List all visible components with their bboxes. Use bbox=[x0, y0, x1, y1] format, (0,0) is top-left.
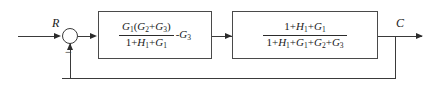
interstage-arrow-icon bbox=[225, 33, 232, 39]
output-signal-label-C: C bbox=[396, 17, 404, 29]
block-1-trailing-term: -G3 bbox=[176, 29, 191, 41]
input-signal-line bbox=[18, 36, 55, 37]
block-2-numerator: 1+H1+G1 bbox=[281, 21, 328, 33]
feedback-arrow-icon bbox=[67, 43, 73, 50]
block-1-expression: G1(G2+G3) 1+H1+G1 -G3 bbox=[119, 21, 191, 48]
error-signal-arrow-icon bbox=[90, 33, 97, 39]
summing-junction bbox=[62, 28, 78, 44]
block-diagram-canvas: R − G1(G2+G3) 1+H1+G1 -G3 1+H1+G1 1+H1+G… bbox=[0, 0, 435, 91]
transfer-function-block-2[interactable]: 1+H1+G1 1+H1+G1+G2+G3 bbox=[232, 11, 378, 59]
feedback-horizontal-line bbox=[62, 78, 396, 79]
block-1-numerator: G1(G2+G3) bbox=[119, 21, 174, 33]
block-1-fraction: G1(G2+G3) 1+H1+G1 bbox=[119, 21, 174, 48]
block-2-denominator: 1+H1+G1+G2+G3 bbox=[263, 37, 346, 49]
transfer-function-block-1[interactable]: G1(G2+G3) 1+H1+G1 -G3 bbox=[98, 11, 212, 59]
input-arrow-icon bbox=[54, 33, 61, 39]
block-2-expression: 1+H1+G1 1+H1+G1+G2+G3 bbox=[263, 21, 346, 48]
block-1-denominator: 1+H1+G1 bbox=[123, 37, 170, 49]
input-signal-label-R: R bbox=[52, 17, 59, 29]
block-2-fraction: 1+H1+G1 1+H1+G1+G2+G3 bbox=[263, 21, 346, 48]
feedback-tap-line bbox=[395, 36, 396, 78]
output-arrow-icon bbox=[416, 33, 423, 39]
